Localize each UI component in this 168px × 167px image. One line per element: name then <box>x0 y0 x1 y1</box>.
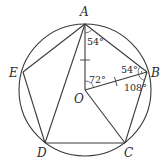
pentagon-diagram: A B C D E O 54° 72° 54° 108° <box>0 0 168 167</box>
angle-label-ABO: 54° <box>121 64 138 75</box>
label-O: O <box>74 92 84 106</box>
label-C: C <box>124 146 133 160</box>
label-A: A <box>79 5 89 19</box>
label-E: E <box>8 66 18 80</box>
angle-label-OBC: 108° <box>124 82 147 93</box>
label-D: D <box>36 146 47 160</box>
angle-arc-OAB <box>85 30 92 34</box>
segment-AD <box>45 24 85 143</box>
angle-label-AOB: 72° <box>89 74 106 85</box>
angle-label-OAB: 54° <box>87 36 104 47</box>
label-B: B <box>150 66 160 80</box>
angle-arc-ABO <box>138 67 140 75</box>
angle-arc-OBC <box>138 75 144 81</box>
segment-OC <box>85 90 125 143</box>
